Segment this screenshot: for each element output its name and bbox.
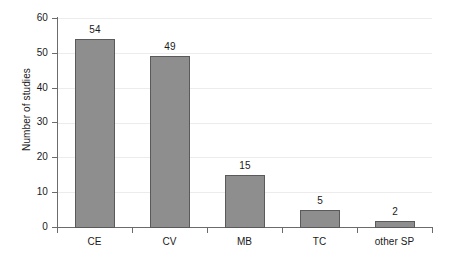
bar-value-cv: 49 <box>150 42 190 52</box>
x-tick-5 <box>432 228 433 233</box>
y-tick-30 <box>52 122 57 123</box>
y-tick-40 <box>52 88 57 89</box>
bar-value-other-sp: 2 <box>375 207 415 217</box>
y-tick-label-10: 10 <box>22 187 48 197</box>
gridline-60 <box>57 18 432 19</box>
x-tick-2 <box>207 228 208 233</box>
bar-chart-figure: Number of studies 60 50 40 30 20 10 0 54… <box>0 0 449 261</box>
y-tick-label-60: 60 <box>22 13 48 23</box>
bar-cv <box>150 56 190 228</box>
bar-value-tc: 5 <box>300 196 340 206</box>
bar-value-ce: 54 <box>75 25 115 35</box>
bar-ce <box>75 39 115 228</box>
x-tick-4 <box>357 228 358 233</box>
y-tick-50 <box>52 53 57 54</box>
x-label-cv: CV <box>132 236 207 247</box>
x-label-other-sp: other SP <box>357 236 432 247</box>
y-tick-label-20: 20 <box>22 152 48 162</box>
y-tick-20 <box>52 157 57 158</box>
x-tick-1 <box>132 228 133 233</box>
x-label-tc: TC <box>282 236 357 247</box>
y-tick-label-0: 0 <box>22 222 48 232</box>
bar-mb <box>225 175 265 228</box>
y-tick-10 <box>52 192 57 193</box>
bar-tc <box>300 210 340 228</box>
x-label-mb: MB <box>207 236 282 247</box>
bar-value-mb: 15 <box>225 161 265 171</box>
x-tick-0 <box>57 228 58 233</box>
y-tick-label-40: 40 <box>22 83 48 93</box>
bar-other-sp <box>375 221 415 228</box>
x-tick-3 <box>282 228 283 233</box>
y-tick-label-30: 30 <box>22 117 48 127</box>
y-tick-60 <box>52 18 57 19</box>
y-axis-line <box>57 17 58 228</box>
y-tick-label-50: 50 <box>22 48 48 58</box>
x-label-ce: CE <box>57 236 132 247</box>
